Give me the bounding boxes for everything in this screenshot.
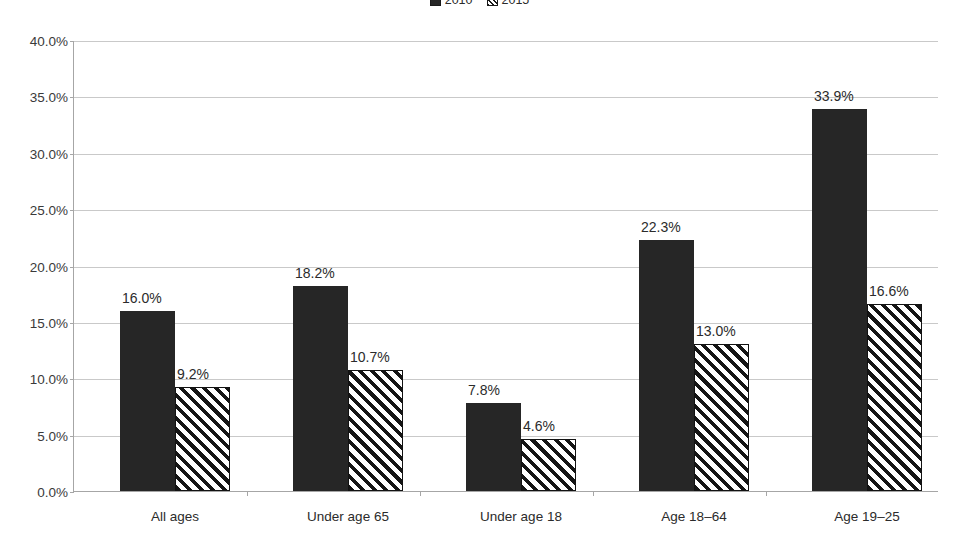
x-tick-2 <box>420 491 421 496</box>
gridline-40 <box>74 41 938 42</box>
bar-2010-under-65 <box>293 286 348 491</box>
legend-item-2015: 2015 <box>487 0 530 7</box>
x-tick-4 <box>766 491 767 496</box>
x-axis-label-under-18: Under age 18 <box>480 509 562 524</box>
bar-2015-under-18 <box>521 439 576 491</box>
gridline-15 <box>74 323 938 324</box>
bar-label-2010-all-ages: 16.0% <box>122 291 162 305</box>
bar-label-2015-age-19-25: 16.6% <box>869 284 909 298</box>
legend-swatch-hatched-icon <box>487 0 498 6</box>
bar-label-2015-under-65: 10.7% <box>350 350 390 364</box>
y-axis-label-15: 15.0% <box>6 315 68 330</box>
bar-chart: 2010 2015 40.0% 35.0% 30.0% 25.0% 20.0% … <box>0 0 959 542</box>
x-axis-label-under-65: Under age 65 <box>307 509 389 524</box>
y-tick-30 <box>70 154 74 155</box>
bar-2015-under-65 <box>348 370 403 491</box>
y-tick-5 <box>70 436 74 437</box>
gridline-25 <box>74 210 938 211</box>
x-axis-label-19-25: Age 19–25 <box>834 509 899 524</box>
plot-area: 16.0% 9.2% 18.2% 10.7% 7.8% 4.6% 22.3% 1… <box>73 41 938 492</box>
gridline-20 <box>74 267 938 268</box>
y-tick-40 <box>70 41 74 42</box>
y-axis-label-30: 30.0% <box>6 146 68 161</box>
x-tick-3 <box>593 491 594 496</box>
chart-legend: 2010 2015 <box>0 0 959 9</box>
y-tick-15 <box>70 323 74 324</box>
bar-2010-age-18-64 <box>639 240 694 491</box>
legend-label-2015: 2015 <box>502 0 530 7</box>
y-tick-35 <box>70 97 74 98</box>
y-tick-20 <box>70 267 74 268</box>
gridline-30 <box>74 154 938 155</box>
y-axis-label-5: 5.0% <box>6 428 68 443</box>
bar-2015-age-19-25 <box>867 304 922 491</box>
y-axis-label-20: 20.0% <box>6 259 68 274</box>
bar-label-2010-age-18-64: 22.3% <box>641 220 681 234</box>
bar-2015-age-18-64 <box>694 344 749 491</box>
y-axis-label-25: 25.0% <box>6 203 68 218</box>
bar-label-2015-all-ages: 9.2% <box>177 367 209 381</box>
y-axis-label-0: 0.0% <box>6 485 68 500</box>
bar-label-2010-under-65: 18.2% <box>295 266 335 280</box>
bar-2010-all-ages <box>120 311 175 491</box>
y-tick-25 <box>70 210 74 211</box>
gridline-35 <box>74 97 938 98</box>
x-tick-1 <box>247 491 248 496</box>
y-tick-0 <box>70 492 74 493</box>
bar-label-2010-under-18: 7.8% <box>468 383 500 397</box>
y-axis-label-10: 10.0% <box>6 372 68 387</box>
bar-2015-all-ages <box>175 387 230 491</box>
legend-item-2010: 2010 <box>430 0 473 7</box>
y-tick-10 <box>70 379 74 380</box>
legend-label-2010: 2010 <box>445 0 473 7</box>
bar-2010-age-19-25 <box>812 109 867 491</box>
x-axis-label-all-ages: All ages <box>151 509 199 524</box>
y-axis-label-35: 35.0% <box>6 90 68 105</box>
bar-label-2010-age-19-25: 33.9% <box>814 89 854 103</box>
legend-swatch-solid-icon <box>430 0 441 6</box>
y-axis-label-40: 40.0% <box>6 34 68 49</box>
bar-2010-under-18 <box>466 403 521 491</box>
bar-label-2015-under-18: 4.6% <box>523 419 555 433</box>
x-axis-label-18-64: Age 18–64 <box>661 509 726 524</box>
bar-label-2015-age-18-64: 13.0% <box>696 324 736 338</box>
